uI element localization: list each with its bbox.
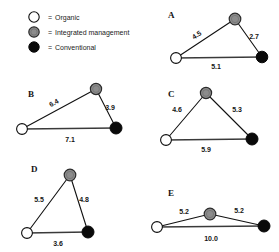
panel-b: B6.43.97.1 xyxy=(17,83,122,143)
node-organic xyxy=(22,228,33,239)
edge-organic-integrated xyxy=(27,175,70,233)
edge-label-organic-integrated: 4.6 xyxy=(172,106,182,113)
panel-a: A4.52.75.1 xyxy=(168,10,268,70)
edge-label-organic-conventional: 7.1 xyxy=(65,136,75,143)
node-integrated xyxy=(204,208,216,220)
edge-label-organic-conventional: 3.6 xyxy=(53,240,63,247)
node-organic xyxy=(161,135,172,146)
node-integrated xyxy=(64,169,76,181)
panel-e: E5.25.210.0 xyxy=(152,188,270,242)
edge-label-organic-integrated: 5.5 xyxy=(34,196,44,203)
edge-organic-integrated xyxy=(157,214,210,227)
node-organic xyxy=(152,222,163,233)
edge-label-organic-conventional: 5.1 xyxy=(211,63,221,70)
node-integrated xyxy=(229,13,241,25)
legend-marker-conventional-icon xyxy=(29,42,39,52)
panel-c: C4.65.35.9 xyxy=(161,87,258,153)
legend-label-conventional: Conventional xyxy=(55,44,96,51)
node-organic xyxy=(17,124,28,135)
node-conventional xyxy=(258,220,270,232)
edge-organic-integrated xyxy=(176,19,235,58)
legend-equals-conventional: = xyxy=(48,44,52,51)
panel-letter-d: D xyxy=(31,164,38,174)
node-conventional xyxy=(256,51,268,63)
legend-label-integrated: Integrated management xyxy=(55,29,129,37)
edge-organic-conventional xyxy=(166,139,252,140)
triangle-distance-figure: =Organic=Integrated management=Conventio… xyxy=(0,0,279,252)
edge-organic-integrated xyxy=(166,93,206,140)
edge-integrated-conventional xyxy=(210,214,264,226)
edge-integrated-conventional xyxy=(70,175,88,232)
node-integrated xyxy=(90,83,101,94)
edge-label-organic-integrated: 5.2 xyxy=(179,208,189,215)
legend: =Organic=Integrated management=Conventio… xyxy=(29,12,130,52)
node-conventional xyxy=(246,133,258,145)
edge-label-integrated-conventional: 5.2 xyxy=(234,207,244,214)
panel-d: D5.54.83.6 xyxy=(22,164,94,247)
edge-label-integrated-conventional: 4.8 xyxy=(79,196,89,203)
edge-label-organic-integrated: 6.4 xyxy=(48,97,60,108)
legend-equals-integrated: = xyxy=(48,29,52,36)
edge-label-organic-conventional: 10.0 xyxy=(204,235,218,242)
panel-letter-e: E xyxy=(168,188,174,198)
legend-marker-organic-icon xyxy=(29,12,39,22)
edge-label-integrated-conventional: 2.7 xyxy=(249,33,259,40)
node-conventional xyxy=(82,226,94,238)
node-conventional xyxy=(110,122,122,134)
panel-letter-c: C xyxy=(168,89,175,99)
panel-letter-a: A xyxy=(168,10,175,20)
edge-organic-conventional xyxy=(27,232,88,233)
figure-canvas: =Organic=Integrated management=Conventio… xyxy=(0,0,279,252)
edge-organic-conventional xyxy=(157,226,264,227)
edge-integrated-conventional xyxy=(206,93,252,139)
legend-equals-organic: = xyxy=(48,14,52,21)
legend-label-organic: Organic xyxy=(55,14,80,22)
edge-label-organic-integrated: 4.5 xyxy=(191,29,203,40)
edge-label-organic-conventional: 5.9 xyxy=(201,146,211,153)
node-integrated xyxy=(200,87,211,98)
node-organic xyxy=(171,53,182,64)
edge-organic-conventional xyxy=(176,57,262,58)
edge-label-integrated-conventional: 3.9 xyxy=(105,104,115,111)
edge-organic-conventional xyxy=(22,128,116,129)
panel-letter-b: B xyxy=(28,89,34,99)
edge-label-integrated-conventional: 5.3 xyxy=(232,106,242,113)
legend-marker-integrated-icon xyxy=(29,27,39,37)
